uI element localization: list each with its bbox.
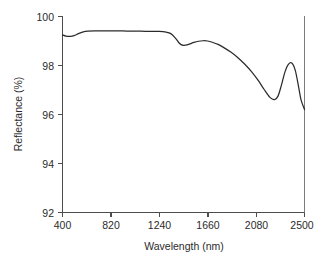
- x-tick-label-1660: 1660: [196, 219, 220, 231]
- y-tick-marks: [58, 17, 63, 213]
- y-axis-title: Reflectance (%): [12, 77, 24, 152]
- x-tick-label-2500: 2500: [290, 219, 314, 231]
- y-tick-label-96: 96: [42, 109, 54, 121]
- x-tick-label-820: 820: [102, 219, 120, 231]
- x-tick-label-2080: 2080: [245, 219, 269, 231]
- reflectance-line-chart: 100 98 96 94 92 400 820 1240 1660 2080 2…: [0, 0, 331, 261]
- chart-figure: 100 98 96 94 92 400 820 1240 1660 2080 2…: [0, 0, 331, 261]
- x-tick-label-400: 400: [54, 219, 72, 231]
- y-tick-labels: 100 98 96 94 92: [36, 11, 54, 219]
- x-tick-label-1240: 1240: [148, 219, 172, 231]
- x-tick-labels: 400 820 1240 1660 2080 2500: [54, 219, 314, 231]
- y-tick-label-92: 92: [42, 207, 54, 219]
- x-tick-marks: [63, 213, 305, 218]
- y-tick-label-100: 100: [36, 11, 54, 23]
- y-tick-label-94: 94: [42, 158, 54, 170]
- reflectance-curve: [63, 31, 305, 110]
- x-axis-title: Wavelength (nm): [144, 240, 224, 252]
- y-tick-label-98: 98: [42, 60, 54, 72]
